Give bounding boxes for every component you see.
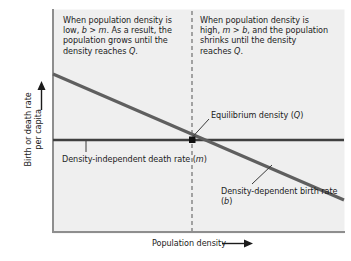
figure-density-dependent-growth: When population density is low, b > m. A… — [0, 0, 351, 261]
y-axis-label-line2: per capita — [33, 69, 43, 189]
y-axis-label: Birth or death rate per capita — [23, 69, 44, 189]
annotation-low-density-text: When population density is low, b > m. A… — [63, 15, 187, 56]
annotation-high-density-text: When population density is high, m > b, … — [200, 15, 330, 56]
death-rate-label: Density-independent death rate (m) — [62, 154, 207, 164]
equilibrium-point-marker — [189, 137, 196, 144]
equilibrium-density-label: Equilibrium density (Q) — [211, 110, 303, 120]
x-axis-arrow-icon — [222, 240, 253, 248]
birth-rate-label: Density-dependent birth rate (b) — [221, 186, 351, 206]
x-axis-label: Population density — [152, 238, 226, 248]
y-axis-label-line1: Birth or death rate — [23, 69, 33, 189]
